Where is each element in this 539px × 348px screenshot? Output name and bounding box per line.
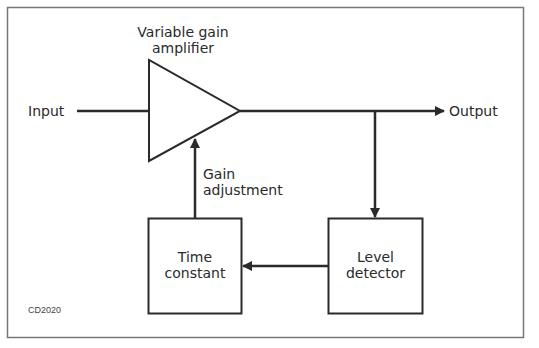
amplifier-label-line2: amplifier [118, 40, 248, 56]
time-label-line1: Time [148, 249, 242, 265]
gain-label-line1: Gain [203, 166, 283, 182]
amplifier-label-line1: Variable gain [118, 24, 248, 40]
time-label-line2: constant [148, 265, 242, 281]
amplifier-label: Variable gain amplifier [118, 24, 248, 56]
block-diagram: Variable gain amplifier Input Output Gai… [0, 0, 539, 348]
level-detector-label: Level detector [328, 249, 423, 281]
level-label-line2: detector [328, 265, 423, 281]
input-label: Input [28, 103, 64, 119]
time-constant-label: Time constant [148, 249, 242, 281]
gain-label-line2: adjustment [203, 182, 283, 198]
level-label-line1: Level [328, 249, 423, 265]
figure-code: CD2020 [28, 302, 61, 318]
output-label: Output [449, 103, 498, 119]
gain-adjustment-label: Gain adjustment [203, 166, 283, 198]
